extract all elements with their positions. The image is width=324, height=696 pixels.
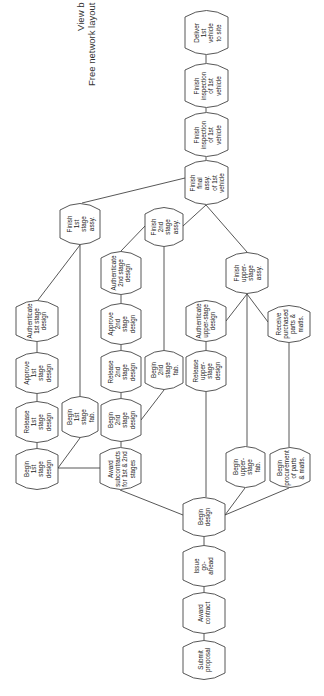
edge	[141, 390, 164, 420]
node-label: Finish final assy. of 1st vehicle	[188, 172, 224, 194]
node-label: Award subcontracts for 1st & 2nd stages	[106, 451, 135, 487]
node-rel1: Release 1st stage design	[16, 401, 58, 443]
node-label: Award contract	[197, 602, 211, 624]
node-begupf: Begin upper-stage fab.	[226, 446, 265, 488]
node-label: Receive purchased parts & matls.	[275, 309, 304, 338]
node-inspect2: Finish inspection of 1st vehicle	[185, 112, 228, 157]
edge	[183, 205, 206, 226]
node-label: Release 1st stage design	[23, 410, 52, 433]
node-issue: Issue go-ahead	[183, 545, 225, 587]
node-label: Begin design	[197, 508, 211, 527]
node-label: Begin 1st stage design	[23, 459, 52, 480]
edge-layer	[0, 0, 324, 696]
node-begdes: Begin design	[183, 497, 225, 537]
node-beg1f: Begin 1st stage fab.	[62, 396, 98, 438]
node-label: Finish upper-stage assy.	[233, 263, 262, 284]
network-diagram: View b Free network layout Deliver 1st v…	[0, 0, 324, 696]
node-label: Release 2nd stage design	[107, 360, 136, 383]
node-auth1: Authenticate 1st stage design	[16, 300, 58, 342]
node-label: Begin 2nd stage fab.	[150, 361, 179, 380]
node-label: Issue go-ahead	[193, 556, 215, 577]
view-label: View b	[75, 3, 86, 86]
node-label: Deliver 1st vehicle to site	[192, 22, 221, 44]
node-awardc: Award contract	[183, 592, 225, 634]
node-final: Finish final assy. of 1st vehicle	[185, 160, 228, 205]
node-label: Authenticate 1st stage design	[26, 303, 48, 338]
node-auth2: Authenticate 2nd stage design	[101, 251, 141, 295]
node-label: Approve 2nd stage design	[107, 312, 136, 335]
node-appr1: Approve 1st stage design	[16, 352, 58, 394]
node-label: Submit proposal	[197, 648, 211, 672]
edge	[58, 438, 80, 468]
node-label: Begin 2nd stage design	[107, 410, 136, 430]
node-deliver: Deliver 1st vehicle to site	[185, 10, 228, 55]
edge	[206, 205, 247, 252]
node-label: Finish inspection of 1st vehicle	[192, 120, 221, 148]
node-relup: Release upper-stage design	[186, 350, 226, 392]
node-label: Begin procurement of parts & matls.	[276, 450, 305, 485]
node-label: Release upper-stage design	[192, 359, 221, 382]
node-finup: Finish upper-stage assy.	[226, 252, 268, 294]
node-fin1: Finish 1st stage assy.	[60, 203, 100, 245]
node-fin2: Finish 2nd stage assy.	[145, 207, 183, 247]
node-label: Approve 1st stage design	[23, 361, 52, 384]
node-recv: Receive purchased parts & matls.	[268, 305, 310, 343]
node-label: Finish inspection of 1st vehicle	[192, 71, 221, 99]
node-label: Finish 1st stage assy.	[66, 214, 95, 234]
edge	[226, 294, 247, 321]
node-authup: Authenticate upper-stage design	[186, 300, 226, 342]
layout-label: Free network layout	[86, 3, 97, 86]
node-submit: Submit proposal	[183, 640, 225, 680]
edge	[247, 294, 268, 322]
node-appr2: Approve 2nd stage design	[101, 303, 141, 345]
node-beg2f: Begin 2nd stage fab.	[145, 350, 183, 390]
edge	[121, 226, 145, 251]
node-rel2: Release 2nd stage design	[101, 350, 141, 393]
edge	[120, 490, 183, 515]
node-label: Authenticate 2nd stage design	[110, 255, 132, 290]
node-label: Finish 2nd stage assy.	[150, 218, 179, 237]
node-proc: Begin procurement of parts & matls.	[270, 447, 310, 488]
node-label: Authenticate upper-stage design	[195, 303, 217, 338]
edge	[82, 178, 185, 203]
diagram-title: View b Free network layout	[75, 3, 97, 86]
node-label: Begin upper-stage fab.	[231, 457, 260, 477]
node-award: Award subcontracts for 1st & 2nd stages	[100, 447, 141, 490]
node-label: Begin 1st stage fab.	[66, 408, 95, 426]
edge	[38, 245, 80, 300]
node-beg1d: Begin 1st stage design	[16, 448, 58, 490]
node-inspect1: Finish inspection of 1st vehicle	[185, 63, 228, 108]
node-beg2d: Begin 2nd stage design	[101, 398, 141, 442]
